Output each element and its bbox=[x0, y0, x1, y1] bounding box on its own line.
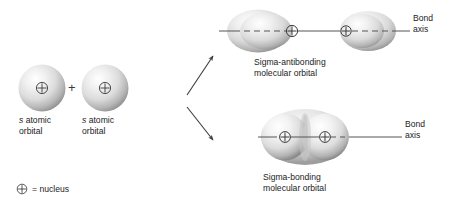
antibonding-nucleus-right bbox=[341, 26, 351, 36]
reactant-right-nucleus-symbol bbox=[99, 82, 110, 93]
reactant-left-nucleus-symbol bbox=[36, 82, 47, 93]
left-orbital-label-line2: orbital bbox=[19, 126, 42, 136]
bonding-bond-axis-label-line1: Bond bbox=[405, 119, 425, 129]
orbital-diagram: s atomicorbital + s atomicorbital = nucl… bbox=[0, 0, 451, 208]
bonding-caption-line1: Sigma-bonding bbox=[263, 172, 321, 182]
left-orbital-label-line1: atomic bbox=[23, 115, 51, 125]
antibonding-bond-axis-label-line1: Bond bbox=[413, 13, 433, 23]
legend-text: = nucleus bbox=[32, 184, 69, 195]
right-orbital-label: s atomicorbital bbox=[82, 115, 114, 137]
right-orbital-label-line2: orbital bbox=[82, 126, 105, 136]
bonding-bond-axis-label: Bondaxis bbox=[405, 119, 425, 141]
right-orbital-label-line1: atomic bbox=[86, 115, 114, 125]
antibonding-nucleus-left bbox=[286, 25, 297, 36]
arrow-up-right-icon bbox=[187, 56, 213, 95]
bonding-nucleus-right bbox=[320, 132, 331, 143]
left-orbital-label: s atomicorbital bbox=[19, 115, 51, 137]
diagram-canvas bbox=[0, 0, 451, 208]
antibonding-bond-axis-label-line2: axis bbox=[413, 24, 428, 34]
antibonding-caption: Sigma-antibondingmolecular orbital bbox=[254, 57, 326, 79]
arrow-down-right-icon bbox=[187, 107, 213, 140]
bonding-caption: Sigma-bondingmolecular orbital bbox=[263, 172, 326, 194]
antibonding-caption-line1: Sigma-antibonding bbox=[254, 57, 326, 67]
bonding-bond-axis-label-line2: axis bbox=[405, 130, 420, 140]
plus-operator: + bbox=[68, 81, 76, 94]
bonding-caption-line2: molecular orbital bbox=[263, 183, 326, 193]
bonding-nucleus-left bbox=[280, 132, 291, 143]
antibonding-bond-axis-label: Bondaxis bbox=[413, 13, 433, 35]
antibonding-caption-line2: molecular orbital bbox=[254, 68, 317, 78]
legend-nucleus-icon bbox=[17, 184, 27, 194]
